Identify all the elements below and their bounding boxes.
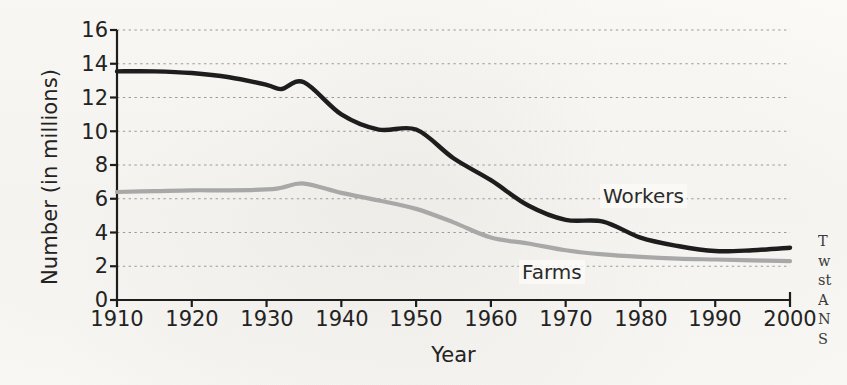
adjacent-text-line-2: w bbox=[818, 252, 847, 272]
axis-ticks bbox=[110, 30, 790, 307]
gridlines bbox=[117, 30, 790, 266]
figure-page: Number (in millions) Year 0 2 4 6 8 10 1… bbox=[0, 0, 847, 385]
adjacent-text-line-1: T bbox=[818, 232, 847, 252]
adjacent-text-line-6: S bbox=[818, 330, 847, 350]
adjacent-text-line-4: A bbox=[818, 291, 847, 311]
line-chart: Number (in millions) Year 0 2 4 6 8 10 1… bbox=[0, 0, 847, 385]
series-label-workers: Workers bbox=[600, 184, 687, 208]
adjacent-text-line-5: N bbox=[818, 310, 847, 330]
adjacent-column-text: T w st A N S bbox=[818, 232, 847, 349]
plot-area bbox=[0, 0, 847, 385]
adjacent-text-line-3: st bbox=[818, 271, 847, 291]
series-label-farms: Farms bbox=[519, 260, 585, 284]
